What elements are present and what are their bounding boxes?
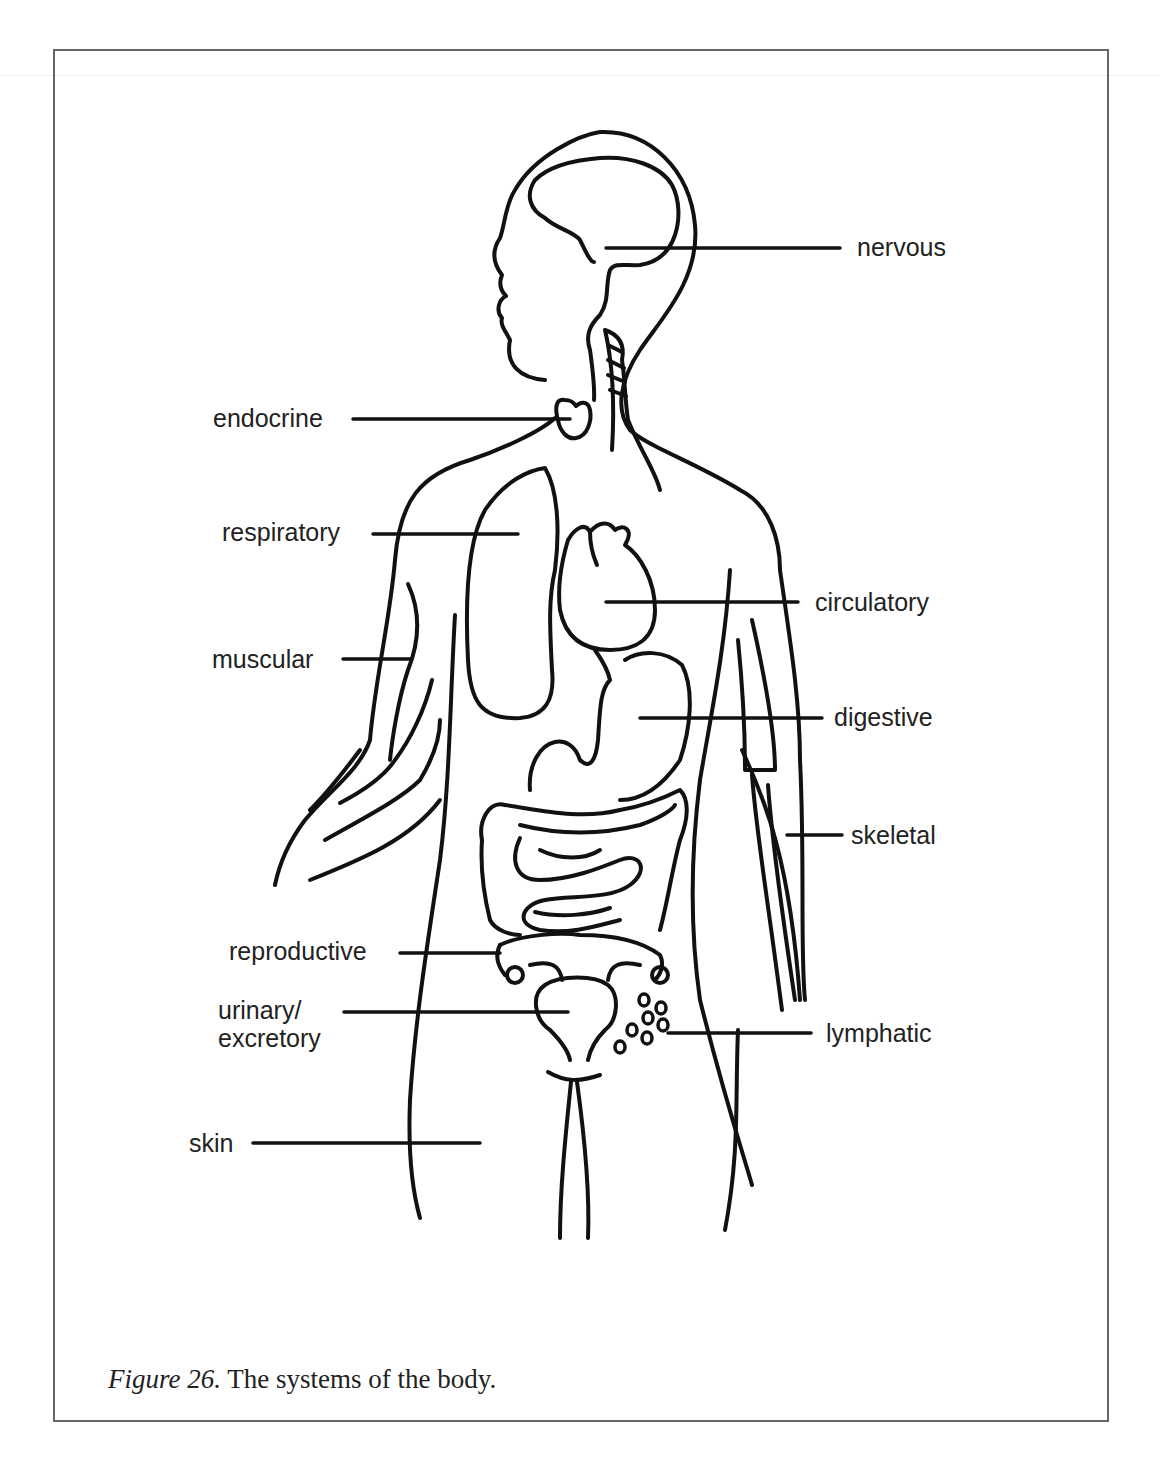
figure-caption-text: The systems of the body. [221, 1364, 496, 1394]
heart [559, 524, 655, 651]
leader-lines [253, 248, 842, 1143]
lung [467, 468, 558, 718]
label-circulatory: circulatory [815, 588, 929, 616]
spinal-cord [605, 330, 660, 490]
brain [530, 158, 679, 400]
small-intestine [515, 838, 641, 931]
label-reproductive: reproductive [229, 937, 367, 965]
label-urinary-line2: excretory [218, 1024, 321, 1052]
label-nervous: nervous [857, 233, 946, 261]
label-digestive: digestive [834, 703, 933, 731]
label-muscular: muscular [212, 645, 313, 673]
figure-caption: Figure 26. The systems of the body. [108, 1364, 496, 1395]
body-systems-illustration [0, 0, 1160, 1469]
figure-number: Figure 26. [108, 1364, 221, 1394]
label-endocrine: endocrine [213, 404, 323, 432]
label-respiratory: respiratory [222, 518, 340, 546]
label-skin: skin [189, 1129, 233, 1157]
body-outline [275, 132, 805, 1238]
label-urinary-line1: urinary/ [218, 996, 301, 1024]
bladder [536, 978, 616, 1061]
label-lymphatic: lymphatic [826, 1019, 932, 1047]
label-skeletal: skeletal [851, 821, 936, 849]
lymph-nodes [615, 994, 668, 1053]
